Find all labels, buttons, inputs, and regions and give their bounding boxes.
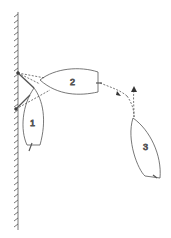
boat-2: 2 — [40, 69, 102, 94]
boat-3-label: 3 — [143, 142, 148, 152]
dashed-path-2-to-3 — [100, 83, 134, 117]
wall-hatching — [14, 14, 18, 227]
boat-1-label: 1 — [30, 118, 35, 128]
boat-2-label: 2 — [70, 77, 75, 87]
arrow-icon — [131, 86, 137, 92]
wall — [14, 12, 18, 230]
boat-1: 1 — [23, 88, 44, 151]
boat-3: 3 — [131, 118, 160, 178]
diagram-canvas: 1 2 3 — [0, 0, 171, 238]
